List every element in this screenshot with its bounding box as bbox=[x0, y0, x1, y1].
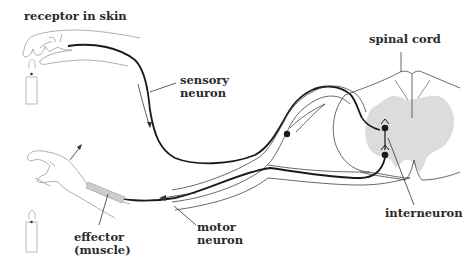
label-sensory-neuron: neuron bbox=[180, 87, 226, 100]
motor-neuron-line bbox=[105, 158, 385, 201]
hand-withdrawing bbox=[27, 151, 130, 218]
muscle bbox=[86, 182, 125, 203]
label-receptor-in-skin: receptor in skin bbox=[24, 10, 127, 23]
label-interneuron: interneuron bbox=[385, 207, 463, 220]
spinal-cord bbox=[333, 71, 460, 180]
candle-bottom bbox=[26, 210, 37, 252]
label-motor-neuron: neuron bbox=[197, 234, 243, 247]
hand-touching-candle bbox=[23, 30, 140, 66]
sensory-pointer bbox=[150, 83, 176, 92]
label-spinal-cord: spinal cord bbox=[369, 33, 441, 46]
grey-matter bbox=[365, 96, 454, 172]
withdrawal-arrow bbox=[70, 144, 82, 160]
ganglion-cell-body bbox=[284, 131, 290, 137]
label-effector-muscle: (muscle) bbox=[74, 244, 131, 257]
candle-top bbox=[26, 59, 37, 104]
